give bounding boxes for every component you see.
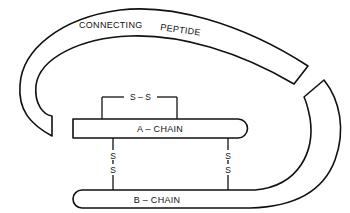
right-link-s1: S [225,151,231,161]
left-link-s1: S [110,151,116,161]
connecting-label: CONNECTING [79,20,143,30]
left-link-s2: S [110,165,116,175]
a-bridge-ss-label: S – S [130,92,151,102]
right-link-s2: S [225,165,231,175]
a-chain-label: A – CHAIN [137,124,183,134]
b-chain-label: B – CHAIN [134,195,181,205]
proinsulin-diagram: S – S S S S S A – CHAIN B – CHAIN CONNEC… [0,0,350,213]
